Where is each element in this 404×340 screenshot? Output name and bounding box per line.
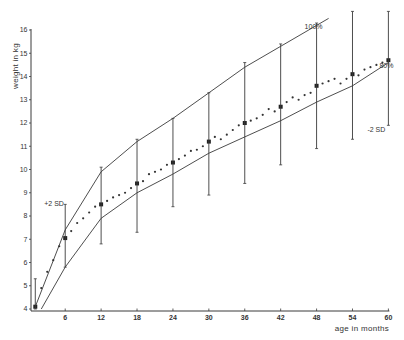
y-tick-label: 15	[20, 50, 28, 57]
monthly-point	[345, 78, 347, 80]
monthly-point	[256, 117, 258, 119]
monthly-point	[52, 259, 54, 261]
plot-area	[33, 11, 390, 309]
monthly-point	[238, 124, 240, 126]
monthly-point	[375, 64, 377, 66]
monthly-point	[94, 206, 96, 208]
y-tick-label: 16	[20, 26, 28, 33]
monthly-point	[220, 138, 222, 140]
y-tick-label: 8	[24, 212, 28, 219]
monthly-point	[166, 164, 168, 166]
monthly-point	[327, 80, 329, 82]
annotation-minus-2sd: -2 SD	[367, 126, 385, 133]
monthly-point	[154, 171, 156, 173]
monthly-point	[339, 82, 341, 84]
y-tick-label: 9	[24, 189, 28, 196]
x-tick-label: 30	[205, 314, 213, 321]
monthly-point	[46, 271, 48, 273]
monthly-point	[268, 108, 270, 110]
x-tick-label: 54	[349, 314, 357, 321]
monthly-point	[76, 222, 78, 224]
y-tick-label: 4	[24, 305, 28, 312]
monthly-point	[202, 145, 204, 147]
monthly-point	[321, 82, 323, 84]
y-tick-label: 14	[20, 73, 28, 80]
monthly-point	[160, 168, 162, 170]
y-axis-title: weight in kg	[11, 43, 20, 90]
monthly-point	[292, 96, 294, 98]
monthly-point	[226, 134, 228, 136]
monthly-point	[106, 200, 108, 202]
annotation-plus-2sd: +2 SD	[44, 200, 64, 207]
x-tick-label: 60	[385, 314, 393, 321]
monthly-point	[363, 68, 365, 70]
y-tick-label: 5	[24, 282, 28, 289]
monthly-point	[214, 136, 216, 138]
x-tick-label: 6	[63, 314, 67, 321]
monthly-point	[58, 245, 60, 247]
monthly-point	[142, 180, 144, 182]
y-tick-label: 6	[24, 259, 28, 266]
monthly-point	[286, 101, 288, 103]
monthly-point	[304, 94, 306, 96]
monthly-point	[369, 66, 371, 68]
x-tick-label: 18	[133, 314, 141, 321]
y-tick-label: 7	[24, 236, 28, 243]
line-100-percent	[35, 18, 328, 306]
y-tick-label: 13	[20, 96, 28, 103]
axes: 456789101112131415166121824303642485460	[20, 26, 393, 321]
monthly-point	[70, 230, 72, 232]
monthly-point	[112, 196, 114, 198]
monthly-point	[232, 129, 234, 131]
x-tick-label: 36	[241, 314, 249, 321]
x-tick-label: 42	[277, 314, 285, 321]
monthly-point	[196, 149, 198, 151]
monthly-point	[309, 92, 311, 94]
x-tick-label: 12	[97, 314, 105, 321]
monthly-point	[178, 158, 180, 160]
line-80-percent	[41, 63, 388, 309]
x-tick-label: 48	[313, 314, 321, 321]
annotation-p80: 80%	[379, 62, 393, 69]
monthly-point	[130, 187, 132, 189]
x-axis-title: age in months	[335, 324, 389, 333]
monthly-point	[118, 194, 120, 196]
monthly-point	[250, 120, 252, 122]
weight-for-age-chart: 456789101112131415166121824303642485460 …	[0, 0, 404, 340]
y-tick-label: 12	[20, 119, 28, 126]
y-tick-label: 10	[20, 166, 28, 173]
monthly-point	[82, 217, 84, 219]
monthly-point	[274, 110, 276, 112]
annotation-p100: 100%	[305, 23, 323, 30]
monthly-point	[124, 192, 126, 194]
x-tick-label: 24	[169, 314, 177, 321]
monthly-point	[298, 99, 300, 101]
y-tick-label: 11	[20, 143, 27, 150]
monthly-point	[88, 211, 90, 213]
monthly-point	[190, 150, 192, 152]
monthly-point	[333, 78, 335, 80]
monthly-point	[148, 173, 150, 175]
monthly-point	[40, 287, 42, 289]
monthly-point	[357, 74, 359, 76]
monthly-point	[184, 154, 186, 156]
monthly-point	[262, 114, 264, 116]
